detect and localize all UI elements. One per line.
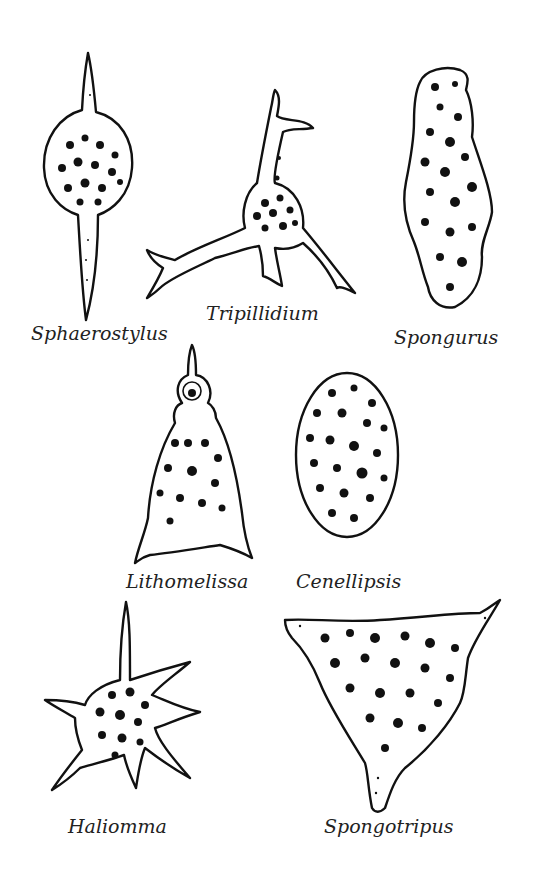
label-haliomma: Haliomma xyxy=(68,815,167,837)
label-lithomelissa: Lithomelissa xyxy=(126,570,248,592)
spongotripus-illustration xyxy=(280,598,505,823)
spongurus-illustration xyxy=(400,62,500,312)
cenellipsis-illustration xyxy=(292,368,402,543)
label-spongurus: Spongurus xyxy=(394,326,498,348)
tripillidium-illustration xyxy=(145,88,360,303)
label-tripillidium: Tripillidium xyxy=(206,302,319,324)
haliomma-illustration xyxy=(40,600,210,800)
label-spongotripus: Spongotripus xyxy=(324,815,453,837)
label-sphaerostylus: Sphaerostylus xyxy=(31,322,168,344)
sphaerostylus-illustration xyxy=(40,50,140,325)
label-cenellipsis: Cenellipsis xyxy=(296,570,401,592)
lithomelissa-illustration xyxy=(130,343,260,568)
